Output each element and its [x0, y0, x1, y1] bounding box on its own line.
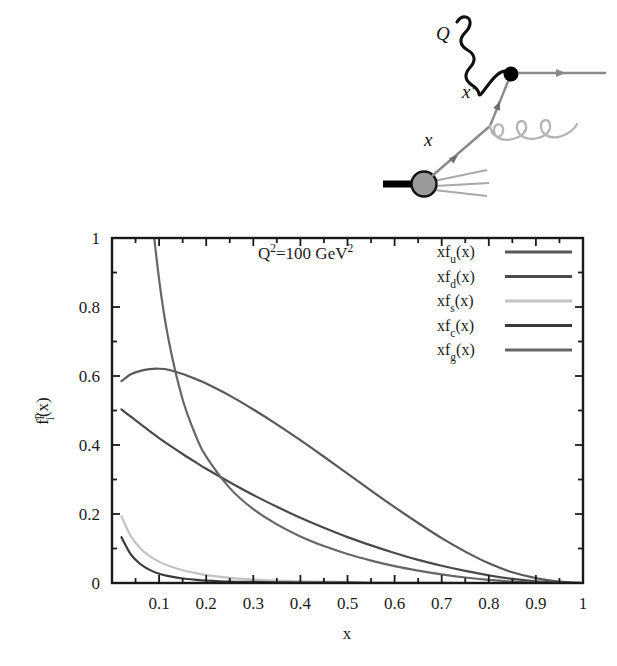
deep-inelastic-scattering-diagram: Q x' x: [0, 0, 617, 215]
legend-label-s: xfs(x): [437, 292, 473, 314]
y-axis-title-tail: (x): [33, 397, 52, 417]
outgoing-quark-arrowhead: [556, 69, 566, 77]
legend-label-u: xfu(x): [437, 243, 475, 265]
x-tick-label: 0.8: [478, 594, 499, 613]
struck-parton-arrowhead: [493, 100, 503, 111]
x-tick-label: 0.2: [196, 594, 217, 613]
x-tick-label: 0.6: [384, 594, 405, 613]
legend-label-g: xfg(x): [437, 341, 475, 364]
proton-remnant-jets: [434, 170, 489, 196]
initial-parton-line: [432, 126, 490, 176]
series-line-xf_u: [121, 369, 583, 583]
figure-root: Q x' x 0.10.20.30.40.50.60.70.80.91 00.2…: [0, 0, 617, 666]
x-tick-label: 0.5: [337, 594, 358, 613]
x-tick-label: 0.1: [148, 594, 169, 613]
parton-distribution-plot: 0.10.20.30.40.50.60.70.80.91 00.20.40.60…: [0, 215, 617, 666]
axis-ticks: [112, 238, 583, 583]
series-line-xf_d: [121, 409, 583, 583]
y-tick-labels: 00.20.40.60.81: [79, 229, 101, 593]
x-tick-label: 1: [579, 594, 588, 613]
svg-text:fpi(x): fpi(x): [31, 397, 56, 424]
legend-label-d: xfd(x): [437, 268, 475, 290]
x-tick-label: 0.9: [525, 594, 546, 613]
series-line-xf_c: [121, 537, 583, 583]
annotation-mid: =100 GeV: [276, 244, 348, 263]
photon-label: Q: [436, 23, 450, 44]
legend-label-c: xfc(x): [437, 317, 474, 339]
plot-frame: [112, 238, 583, 583]
x-tick-label: 0.4: [290, 594, 312, 613]
y-tick-label: 1: [92, 229, 101, 248]
y-tick-label: 0.8: [79, 298, 100, 317]
series-line-xf_g: [121, 215, 583, 583]
annotation-q: Q: [258, 244, 270, 263]
x-tick-label: 0.7: [431, 594, 453, 613]
struck-parton-label: x': [461, 81, 475, 102]
series-group: [121, 215, 583, 583]
legend: xfu(x)xfd(x)xfs(x)xfc(x)xfg(x): [437, 243, 572, 364]
q-squared-annotation: Q2=100 GeV2: [258, 242, 353, 263]
initial-parton-label: x: [423, 129, 433, 150]
annotation-sup2: 2: [347, 242, 353, 254]
y-tick-label: 0.2: [79, 505, 100, 524]
y-axis-title: fpi(x): [31, 397, 56, 424]
struck-parton-line: [490, 74, 511, 126]
y-tick-label: 0.6: [79, 367, 100, 386]
x-tick-label: 0.3: [243, 594, 264, 613]
gluon-coil: [490, 120, 577, 140]
x-tick-labels: 0.10.20.30.40.50.60.70.80.91: [148, 594, 587, 613]
y-tick-label: 0.4: [79, 436, 101, 455]
interaction-vertex-dot: [504, 67, 519, 82]
y-tick-label: 0: [92, 574, 101, 593]
x-axis-title: x: [343, 624, 352, 643]
